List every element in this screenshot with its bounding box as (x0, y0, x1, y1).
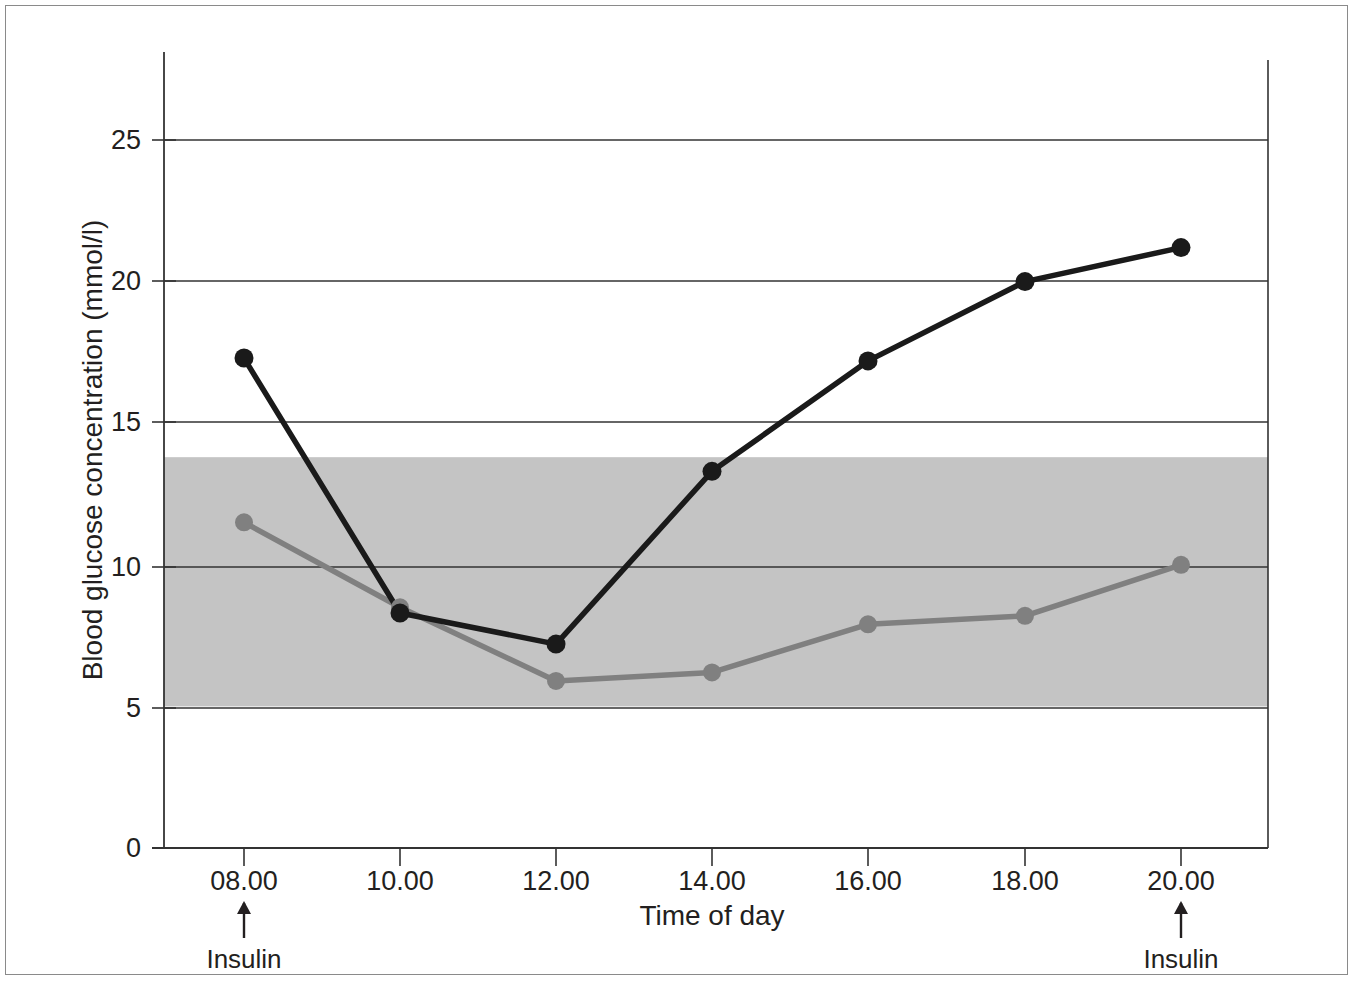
y-tick-label-20: 20 (111, 266, 141, 296)
x-tick-marks (244, 848, 1181, 866)
data-point (703, 663, 721, 681)
y-tick-label-5: 5 (126, 693, 141, 723)
x-tick-label-1400: 14.00 (678, 866, 746, 896)
data-point (391, 603, 410, 622)
y-tick-label-25: 25 (111, 125, 141, 155)
insulin-label-left: Insulin (206, 944, 281, 974)
y-tick-label-0: 0 (126, 833, 141, 863)
data-point (1172, 556, 1190, 574)
data-point (547, 672, 565, 690)
y-tick-label-10: 10 (111, 552, 141, 582)
x-tick-label-1000: 10.00 (366, 866, 434, 896)
x-tick-label-1200: 12.00 (522, 866, 590, 896)
x-axis-title: Time of day (639, 900, 784, 931)
blood-glucose-chart: 0 5 10 15 20 25 08.00 10.00 12.00 14.00 … (0, 0, 1354, 994)
data-point (859, 351, 878, 370)
data-point (235, 513, 253, 531)
chart-page: 0 5 10 15 20 25 08.00 10.00 12.00 14.00 … (0, 0, 1354, 994)
y-tick-label-15: 15 (111, 407, 141, 437)
x-tick-label-1600: 16.00 (834, 866, 902, 896)
x-tick-label-1800: 18.00 (991, 866, 1059, 896)
y-axis-title: Blood glucose concentration (mmol/l) (77, 220, 108, 681)
insulin-arrow-left-icon (237, 901, 251, 938)
data-point (235, 349, 254, 368)
data-point (547, 635, 566, 654)
x-tick-label-2000: 20.00 (1147, 866, 1215, 896)
data-point (703, 462, 722, 481)
data-point (1016, 607, 1034, 625)
insulin-arrow-right-icon (1174, 901, 1188, 938)
insulin-label-right: Insulin (1143, 944, 1218, 974)
data-point (859, 615, 877, 633)
data-point (1016, 272, 1035, 291)
data-point (1172, 238, 1191, 257)
x-tick-label-0800: 08.00 (210, 866, 278, 896)
